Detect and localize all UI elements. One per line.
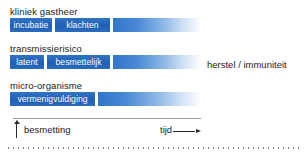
segment-latent: latent <box>10 55 44 69</box>
row-label-micro-organisme: micro-organisme <box>10 80 82 91</box>
row-label-kliniek-gastheer: kliniek gastheer <box>10 6 78 17</box>
bottom-dotted-divider <box>6 147 299 149</box>
segment-label-klachten: klachten <box>64 20 100 30</box>
segment-vermenigvuldiging: vermenigvuldiging <box>10 92 95 106</box>
infection-timeline-diagram: kliniek gastheer incubatie klachten tran… <box>0 0 305 155</box>
segment-label-besmettelijk: besmettelijk <box>54 57 104 67</box>
axis-label-besmetting: besmetting <box>24 124 70 135</box>
segment-fade-micro-organisme <box>98 92 201 106</box>
segment-label-vermenigvuldiging: vermenigvuldiging <box>15 94 89 104</box>
segment-besmettelijk: besmettelijk <box>47 55 110 69</box>
segment-fade-transmissierisico <box>113 55 201 69</box>
axis-baseline <box>13 118 201 119</box>
segment-fade-kliniek-gastheer <box>113 18 201 32</box>
segment-incubatie: incubatie <box>10 18 52 32</box>
segment-label-incubatie: incubatie <box>12 20 51 30</box>
arrow-right-icon <box>173 129 201 134</box>
side-caption-herstel-immuniteit: herstel / immuniteit <box>207 59 287 70</box>
arrow-up-icon <box>13 120 20 138</box>
segment-label-latent: latent <box>14 57 39 67</box>
axis-label-tijd: tijd <box>160 124 172 135</box>
row-label-transmissierisico: transmissierisico <box>10 43 82 54</box>
segment-klachten: klachten <box>55 18 110 32</box>
